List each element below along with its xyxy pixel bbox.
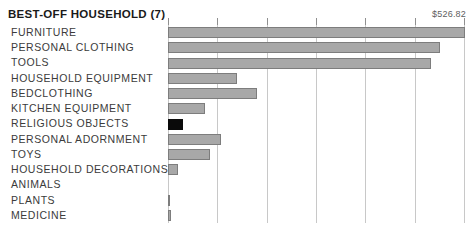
- bar: [168, 164, 178, 175]
- category-label: PERSONAL ADORNMENT: [11, 132, 148, 147]
- category-label: MEDICINE: [11, 208, 67, 223]
- category-label-list: FURNITUREPERSONAL CLOTHINGTOOLSHOUSEHOLD…: [0, 25, 168, 223]
- axis-tick: [365, 18, 366, 25]
- page-title: BEST-OFF HOUSEHOLD (7): [8, 8, 165, 20]
- bar: [168, 73, 237, 84]
- axis-tick: [415, 18, 416, 25]
- category-label: RELIGIOUS OBJECTS: [11, 116, 129, 131]
- max-value-label: $526.82: [432, 9, 466, 19]
- axis-tick: [168, 18, 169, 25]
- bar: [168, 210, 171, 221]
- bar: [168, 149, 210, 160]
- axis-tick: [464, 18, 465, 25]
- bar: [168, 88, 257, 99]
- axis-tick: [316, 18, 317, 25]
- category-label: TOOLS: [11, 55, 49, 70]
- bar: [168, 103, 205, 114]
- category-label: ANIMALS: [11, 177, 61, 192]
- category-label: PERSONAL CLOTHING: [11, 40, 134, 55]
- bar: [168, 42, 440, 53]
- category-label: PLANTS: [11, 193, 55, 208]
- category-label: TOYS: [11, 147, 42, 162]
- axis-tick: [217, 18, 218, 25]
- bar: [168, 58, 431, 69]
- bar-chart-panel: BEST-OFF HOUSEHOLD (7) $526.82 FURNITURE…: [0, 0, 475, 238]
- bar: [168, 27, 465, 38]
- category-label: FURNITURE: [11, 25, 77, 40]
- bar: [168, 119, 183, 130]
- bar: [168, 195, 170, 206]
- category-label: BEDCLOTHING: [11, 86, 93, 101]
- bar: [168, 134, 221, 145]
- bars-layer: [168, 25, 465, 223]
- axis-tick: [267, 18, 268, 25]
- plot-area: [168, 25, 465, 223]
- category-label: HOUSEHOLD DECORATIONS: [11, 162, 168, 177]
- category-label: HOUSEHOLD EQUIPMENT: [11, 71, 153, 86]
- category-label: KITCHEN EQUIPMENT: [11, 101, 132, 116]
